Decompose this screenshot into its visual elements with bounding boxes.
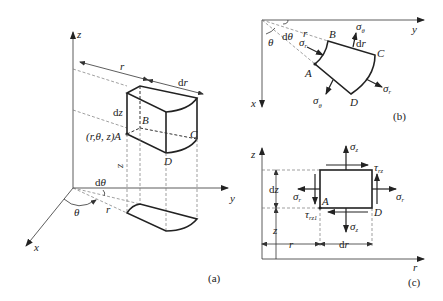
sigma-theta-top-label: σθ <box>356 20 365 34</box>
sigma-r-right-label: σr <box>396 190 404 203</box>
base-footprint <box>127 204 197 231</box>
volume-element <box>125 86 197 153</box>
x-axis <box>26 188 73 246</box>
theta-arc <box>64 199 96 206</box>
dtheta-label: dθ <box>282 30 294 42</box>
caption-b: (b) <box>393 110 406 123</box>
theta-label: θ <box>268 36 274 48</box>
point-a-label: (r,θ, z)A <box>86 130 121 143</box>
z-label: z <box>272 224 278 236</box>
z-height-label: z <box>116 163 128 169</box>
dtheta-label: dθ <box>95 176 107 188</box>
y-axis-label: y <box>411 23 417 35</box>
point-b-label: B <box>142 114 149 126</box>
dr-label: dr <box>178 76 189 88</box>
point-d-label: D <box>373 206 382 218</box>
panel-b: y x θ dθ r B C A D dr σθ σθ σr σr (b) <box>250 20 424 123</box>
dr-label: dr <box>356 37 367 49</box>
sigma-z-bottom-label: σz <box>350 220 358 233</box>
r-label: r <box>120 60 125 72</box>
caption-c: (c) <box>408 276 421 289</box>
point-a-label: A <box>321 195 329 207</box>
panel-c: z r dz z r dr A D σz σz σr σr τrz <box>250 140 424 289</box>
dr-dimension <box>148 80 203 94</box>
plane-element <box>315 41 375 94</box>
sigma-theta-bottom-label: σθ <box>313 94 322 109</box>
r-dimension <box>80 62 148 80</box>
dz-label: dz <box>269 183 280 195</box>
theta-label: θ <box>74 206 80 218</box>
r-label: r <box>289 238 294 250</box>
sigma-r-right-label: σr <box>383 82 391 95</box>
sigma-z-top-label: σz <box>350 140 358 153</box>
r-base-label: r <box>106 203 111 215</box>
r-axis-label: r <box>413 261 418 273</box>
point-c-label: C <box>190 128 198 140</box>
sigma-r-left-label: σr <box>293 190 301 203</box>
sigma-theta-bottom-arrow <box>326 80 333 94</box>
panel-a: z y x r dr dz (r,θ, z)A B C <box>26 28 235 285</box>
tau-rz-top-label: τrz <box>374 161 383 174</box>
sigma-r-left-arrow <box>307 47 323 55</box>
dz-label: dz <box>113 106 124 118</box>
dr-label: dr <box>339 238 350 250</box>
x-axis-label: x <box>33 241 39 253</box>
sigma-r-right-arrow <box>366 79 382 87</box>
tau-rz-bottom-label: τrz1 <box>305 208 317 221</box>
guide-top <box>73 69 127 86</box>
cylindrical-stress-element-figure: z y x r dr dz (r,θ, z)A B C <box>0 0 443 301</box>
point-d-label: D <box>349 96 358 108</box>
x-axis-label: x <box>250 97 256 109</box>
point-c-label: C <box>377 47 385 59</box>
point-a-label: A <box>304 67 312 79</box>
y-axis-label: y <box>229 192 235 204</box>
z-axis-label: z <box>76 28 82 40</box>
point-d-label: D <box>163 155 172 167</box>
z-axis-label: z <box>250 148 256 160</box>
point-b-label: B <box>329 28 336 40</box>
caption-a: (a) <box>208 272 221 285</box>
